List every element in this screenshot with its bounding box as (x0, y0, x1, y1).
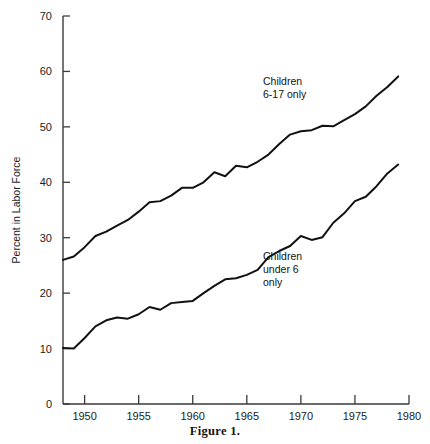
children-under-6-label-line: under 6 (263, 263, 299, 275)
y-axis-title: Percent in Labor Force (10, 156, 22, 263)
y-tick-label: 70 (40, 10, 52, 22)
y-tick-label: 60 (40, 65, 52, 77)
children-under-6-label-line: only (263, 276, 283, 288)
series-line-0 (63, 76, 398, 259)
children-6-17-label: Children6-17 only (263, 75, 307, 100)
figure-1: 0102030405060701950195519601965197019751… (0, 0, 430, 444)
figure-caption: Figure 1. (0, 424, 430, 439)
children-under-6-label-line: Children (263, 250, 302, 262)
y-tick-label: 30 (40, 232, 52, 244)
x-tick-label: 1970 (289, 410, 313, 422)
children-6-17-label-line: Children (263, 75, 302, 87)
x-tick-label: 1955 (126, 410, 150, 422)
children-under-6-label: Childrenunder 6only (263, 250, 302, 288)
y-tick-label: 40 (40, 176, 52, 188)
y-tick-label: 0 (46, 398, 52, 410)
x-tick-label: 1980 (397, 410, 421, 422)
x-tick-label: 1960 (181, 410, 205, 422)
line-chart: 0102030405060701950195519601965197019751… (0, 0, 430, 444)
x-tick-label: 1975 (343, 410, 367, 422)
series-line-1 (63, 165, 398, 349)
y-tick-label: 10 (40, 343, 52, 355)
x-tick-label: 1950 (72, 410, 96, 422)
y-tick-label: 20 (40, 287, 52, 299)
y-tick-label: 50 (40, 121, 52, 133)
children-6-17-label-line: 6-17 only (263, 88, 307, 100)
x-tick-label: 1965 (235, 410, 259, 422)
